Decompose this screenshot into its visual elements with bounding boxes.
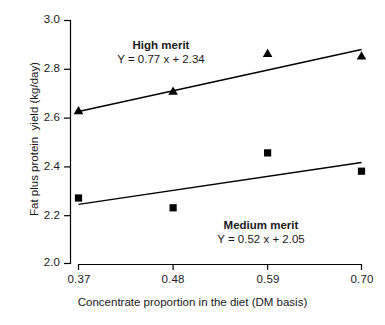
data-point-medium-merit-0-59 bbox=[264, 149, 271, 156]
data-point-high-merit-0-70 bbox=[357, 51, 367, 59]
annotation-medium-merit: Medium merit Y = 0.52 x + 2.05 bbox=[196, 218, 326, 247]
y-tick-label-2-0: 2.0 bbox=[28, 256, 60, 268]
data-point-high-merit-0-59 bbox=[263, 49, 273, 57]
annotation-high-merit-equation: Y = 0.77 x + 2.34 bbox=[96, 52, 226, 66]
data-point-medium-merit-0-48 bbox=[170, 204, 177, 211]
x-tick-label-0-48: 0.48 bbox=[148, 273, 198, 285]
medium-merit-fit-line bbox=[79, 163, 362, 205]
annotation-medium-merit-equation: Y = 0.52 x + 2.05 bbox=[196, 232, 326, 246]
x-axis-title: Concentrate proportion in the diet (DM b… bbox=[0, 296, 385, 308]
data-point-medium-merit-0-70 bbox=[358, 168, 365, 175]
annotation-high-merit: High merit Y = 0.77 x + 2.34 bbox=[96, 38, 226, 67]
x-tick-label-0-59: 0.59 bbox=[243, 273, 293, 285]
chart-figure: 3.0 2.8 2.6 2.4 2.2 2.0 0.37 0.48 0.59 0… bbox=[0, 0, 385, 325]
x-tick-label-0-37: 0.37 bbox=[54, 273, 104, 285]
annotation-high-merit-title: High merit bbox=[96, 38, 226, 52]
x-tick-label-0-70: 0.70 bbox=[337, 273, 385, 285]
annotation-medium-merit-title: Medium merit bbox=[196, 218, 326, 232]
y-axis-title: Fat plus protein yield (kg/day) bbox=[28, 24, 40, 254]
data-point-medium-merit-0-37 bbox=[75, 194, 82, 201]
